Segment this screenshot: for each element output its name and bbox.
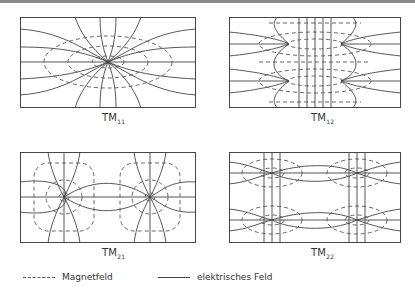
legend-magnetic: Magnetfeld xyxy=(23,272,113,282)
legend-electric: elektrisches Feld xyxy=(158,272,272,282)
panel-label-tm22: TM22 xyxy=(311,247,334,260)
panel-tm12 xyxy=(229,17,401,108)
panel-tm11 xyxy=(20,17,196,108)
panel-label-tm21: TM21 xyxy=(102,247,125,260)
panel-tm22 xyxy=(229,152,401,243)
panel-label-tm12: TM12 xyxy=(311,112,334,125)
legend-magnetic-label: Magnetfeld xyxy=(62,272,113,282)
dashed-line-sample xyxy=(23,277,55,278)
solid-line-sample xyxy=(158,277,190,278)
panel-tm21 xyxy=(20,152,196,243)
panel-label-tm11: TM11 xyxy=(102,112,125,125)
top-border xyxy=(0,0,415,3)
legend-electric-label: elektrisches Feld xyxy=(197,272,272,282)
